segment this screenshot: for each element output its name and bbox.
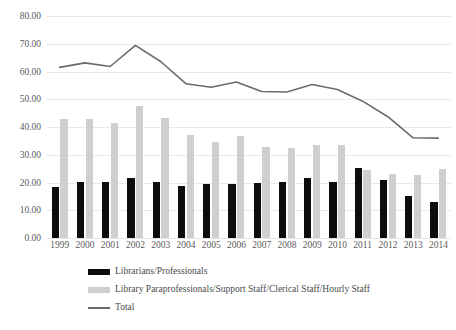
x-axis-tick-label: 2010 — [328, 240, 347, 250]
y-axis-tick-label: 30.00 — [20, 150, 41, 160]
y-axis-tick-label: 10.00 — [20, 205, 41, 215]
x-axis-tick-label: 2007 — [252, 240, 271, 250]
legend: Librarians/Professionals Library Parapro… — [88, 264, 448, 318]
x-axis-tick-label: 2001 — [101, 240, 120, 250]
x-axis-tick-label: 2009 — [303, 240, 322, 250]
x-axis-tick-label: 2004 — [176, 240, 195, 250]
gray-swatch-icon — [88, 287, 110, 293]
y-axis-tick-label: 40.00 — [20, 122, 41, 132]
y-axis-tick-label: 80.00 — [20, 11, 41, 21]
legend-item-total: Total — [88, 300, 448, 316]
line-series-layer — [47, 16, 451, 238]
legend-item-paraprofessionals: Library Paraprofessionals/Support Staff/… — [88, 282, 448, 298]
x-axis-tick-label: 2005 — [202, 240, 221, 250]
gridline — [47, 238, 451, 239]
x-axis-tick-label: 1999 — [50, 240, 69, 250]
x-axis-tick-label: 2012 — [378, 240, 397, 250]
chart-container: 0.0010.0020.0030.0040.0050.0060.0070.008… — [0, 0, 456, 330]
y-axis-tick-label: 60.00 — [20, 67, 41, 77]
y-axis-tick-label: 0.00 — [24, 233, 41, 243]
black-swatch-icon — [88, 269, 110, 275]
x-axis-tick-label: 2003 — [151, 240, 170, 250]
x-axis: 1999200020012002200320042005200620072008… — [47, 240, 451, 256]
line-series-total — [60, 45, 439, 138]
y-axis-tick-label: 50.00 — [20, 94, 41, 104]
y-axis: 0.0010.0020.0030.0040.0050.0060.0070.008… — [0, 16, 44, 238]
x-axis-tick-label: 2006 — [227, 240, 246, 250]
x-axis-tick-label: 2008 — [277, 240, 296, 250]
x-axis-tick-label: 2002 — [126, 240, 145, 250]
y-axis-tick-label: 20.00 — [20, 178, 41, 188]
x-axis-tick-label: 2013 — [404, 240, 423, 250]
plot-area — [47, 16, 451, 238]
legend-item-label: Librarians/Professionals — [115, 267, 207, 277]
legend-item-label: Library Paraprofessionals/Support Staff/… — [115, 285, 370, 295]
x-axis-tick-label: 2011 — [353, 240, 372, 250]
x-axis-tick-label: 2000 — [75, 240, 94, 250]
legend-item-label: Total — [115, 303, 134, 313]
y-axis-tick-label: 70.00 — [20, 39, 41, 49]
legend-item-librarians: Librarians/Professionals — [88, 264, 448, 280]
line-swatch-icon — [88, 307, 110, 309]
x-axis-tick-label: 2014 — [429, 240, 448, 250]
